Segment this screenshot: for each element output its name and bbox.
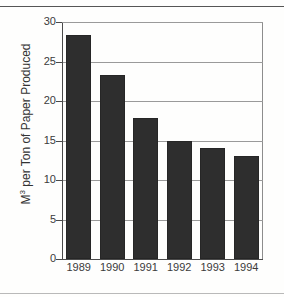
x-axis-tick-label: 1990: [96, 262, 130, 273]
page-rule-top: [0, 6, 284, 7]
x-axis-tick-label: 1993: [196, 262, 230, 273]
x-axis-line: [62, 259, 263, 260]
x-axis-tick-label: 1994: [230, 262, 264, 273]
y-axis-tick-label: 5: [10, 214, 56, 225]
plot-area: [62, 22, 263, 259]
y-axis-tickmark: [56, 259, 62, 260]
y-axis-tickmark: [56, 22, 62, 23]
bar: [133, 118, 158, 259]
y-axis-tickmark: [56, 141, 62, 142]
y-axis-tick-label: 15: [10, 135, 56, 146]
y-axis-tickmark: [56, 62, 62, 63]
gridline: [63, 62, 263, 63]
y-axis-tick-label: 10: [10, 174, 56, 185]
x-axis-tick-label: 1989: [62, 262, 96, 273]
y-axis-tick-label: 20: [10, 95, 56, 106]
y-axis-tick-label: 25: [10, 56, 56, 67]
y-axis-tickmark: [56, 220, 62, 221]
bar-chart-figure: M3 per Ton of Paper Produced 05101520253…: [0, 0, 284, 297]
gridline: [63, 141, 263, 142]
gridline: [63, 101, 263, 102]
bar: [167, 141, 192, 260]
y-axis-tick-label: 0: [10, 253, 56, 264]
x-axis-tick-labels: 198919901991199219931994: [62, 262, 263, 280]
bar: [234, 156, 259, 259]
bar: [100, 75, 125, 259]
y-axis-tick-labels: 051015202530: [8, 22, 56, 259]
bar: [200, 148, 225, 259]
y-axis-tickmark: [56, 180, 62, 181]
y-axis-tick-label: 30: [10, 16, 56, 27]
y-axis-tickmark: [56, 101, 62, 102]
x-axis-tick-label: 1992: [163, 262, 197, 273]
page-rule-bottom: [0, 293, 284, 294]
gridline: [63, 22, 263, 23]
x-axis-tick-label: 1991: [129, 262, 163, 273]
bar: [66, 35, 91, 259]
